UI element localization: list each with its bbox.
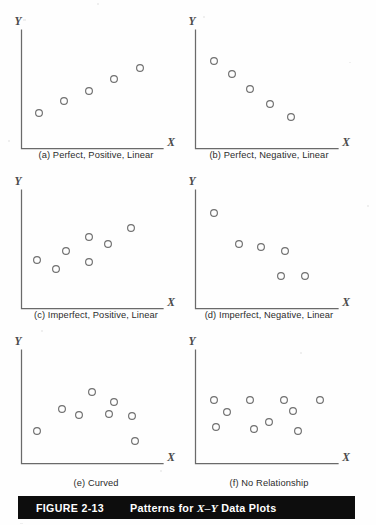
- data-point: [281, 397, 288, 404]
- plot-d: Y X: [181, 172, 357, 312]
- data-point: [86, 234, 93, 241]
- data-point: [36, 110, 43, 117]
- data-point: [53, 266, 60, 273]
- figure-title-prefix: Patterns for: [130, 502, 197, 514]
- plot-c: Y X: [8, 172, 184, 312]
- data-point: [213, 424, 220, 431]
- data-point: [86, 88, 93, 95]
- x-axis-label-d: X: [341, 296, 350, 308]
- data-points-a: [36, 65, 144, 117]
- data-points-b: [211, 58, 295, 121]
- panel-grid: Y X (a) Perfect, Positive, Linear Y X: [0, 0, 376, 490]
- data-point: [129, 413, 136, 420]
- x-axis-label-c: X: [166, 296, 175, 308]
- panel-caption-c: (c) Imperfect, Positive, Linear: [8, 310, 184, 320]
- y-axis-label-a: Y: [14, 15, 22, 27]
- data-point: [224, 409, 231, 416]
- data-point: [137, 65, 144, 72]
- panel-caption-e: (e) Curved: [8, 478, 184, 488]
- x-axis-label-b: X: [341, 136, 350, 148]
- figure-container: Y X (a) Perfect, Positive, Linear Y X: [0, 0, 376, 525]
- data-point: [229, 71, 236, 78]
- data-point: [267, 101, 274, 108]
- y-axis-label-d: Y: [188, 175, 196, 187]
- data-point: [211, 210, 218, 217]
- axis-lines-d: [196, 190, 339, 309]
- data-point: [258, 244, 265, 251]
- axis-lines-e: [22, 350, 164, 464]
- data-point: [89, 389, 96, 396]
- figure-caption-bar: FIGURE 2-13 Patterns for X–Y Data Plots: [18, 496, 355, 519]
- figure-title: Patterns for X–Y Data Plots: [130, 502, 276, 514]
- data-point: [302, 273, 309, 280]
- panel-a: Y X (a) Perfect, Positive, Linear: [8, 12, 184, 172]
- figure-number: FIGURE 2-13: [36, 502, 104, 514]
- data-point: [76, 412, 83, 419]
- figure-title-suffix: Data Plots: [218, 502, 277, 514]
- data-point: [247, 86, 254, 93]
- plot-a: Y X: [8, 12, 184, 152]
- data-point: [278, 273, 285, 280]
- axis-lines-f: [196, 350, 339, 464]
- data-point: [59, 406, 66, 413]
- data-point: [34, 428, 41, 435]
- data-point: [86, 259, 93, 266]
- data-point: [266, 419, 273, 426]
- data-point: [288, 114, 295, 121]
- data-points-d: [211, 210, 309, 280]
- y-axis-label-f: Y: [188, 335, 196, 347]
- data-point: [247, 397, 254, 404]
- data-point: [111, 399, 118, 406]
- data-point: [211, 397, 218, 404]
- panel-caption-d: (d) Imperfect, Negative, Linear: [181, 310, 357, 320]
- x-axis-label-f: X: [341, 451, 350, 463]
- panel-c: Y X (c) Imperfect, Positive, Linear: [8, 172, 184, 332]
- data-point: [251, 426, 258, 433]
- x-axis-label-a: X: [166, 136, 175, 148]
- panel-f: Y X (f) No Relationship: [181, 332, 357, 500]
- data-point: [61, 98, 68, 105]
- plot-f: Y X: [181, 332, 357, 478]
- data-points-f: [211, 397, 324, 435]
- data-points-c: [34, 225, 135, 273]
- data-point: [211, 58, 218, 65]
- data-point: [63, 248, 70, 255]
- y-axis-label-b: Y: [188, 15, 196, 27]
- panel-b: Y X (b) Perfect, Negative, Linear: [181, 12, 357, 172]
- axis-lines-b: [196, 30, 339, 149]
- data-point: [295, 428, 302, 435]
- data-point: [106, 411, 113, 418]
- data-points-e: [34, 389, 139, 445]
- y-axis-label-e: Y: [14, 335, 22, 347]
- data-point: [282, 248, 289, 255]
- data-point: [290, 408, 297, 415]
- data-point: [34, 257, 41, 264]
- panel-e: Y X (e) Curved: [8, 332, 184, 500]
- panel-caption-b: (b) Perfect, Negative, Linear: [181, 150, 357, 160]
- axis-lines-c: [22, 190, 164, 309]
- figure-title-variables: X–Y: [197, 502, 218, 514]
- plot-b: Y X: [181, 12, 357, 152]
- y-axis-label-c: Y: [14, 175, 22, 187]
- panel-caption-a: (a) Perfect, Positive, Linear: [8, 150, 184, 160]
- panel-caption-f: (f) No Relationship: [181, 478, 357, 488]
- data-point: [105, 241, 112, 248]
- data-point: [111, 76, 118, 83]
- data-point: [236, 241, 243, 248]
- panel-d: Y X (d) Imperfect, Negative, Linear: [181, 172, 357, 332]
- data-point: [317, 397, 324, 404]
- data-point: [128, 225, 135, 232]
- x-axis-label-e: X: [166, 451, 175, 463]
- data-point: [132, 438, 139, 445]
- plot-e: Y X: [8, 332, 184, 478]
